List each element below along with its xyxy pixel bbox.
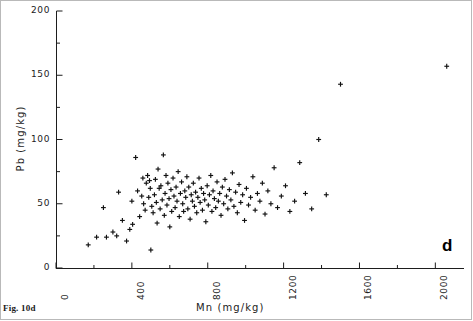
- data-point: [283, 183, 288, 188]
- data-point: [183, 195, 188, 200]
- x-axis-tick-label: 1200: [288, 275, 298, 300]
- data-point: [223, 177, 228, 182]
- data-point: [199, 186, 204, 191]
- data-point: [166, 181, 171, 186]
- data-point: [268, 201, 273, 206]
- data-point: [213, 205, 218, 210]
- data-point: [228, 197, 233, 202]
- data-point: [154, 200, 159, 205]
- data-point: [221, 201, 226, 206]
- data-point: [217, 191, 222, 196]
- x-axis-tick-label: 800: [212, 281, 222, 300]
- panel-letter-label: d: [442, 236, 452, 256]
- data-point: [140, 176, 145, 181]
- y-axis-tick-label: 200: [14, 5, 50, 15]
- data-point: [156, 167, 161, 172]
- data-point: [224, 194, 229, 199]
- data-point: [260, 181, 265, 186]
- x-axis-tick-label: 400: [136, 281, 146, 300]
- data-point: [265, 189, 270, 194]
- data-point: [230, 171, 235, 176]
- data-point: [149, 204, 154, 209]
- data-point: [178, 191, 183, 196]
- data-point: [275, 205, 280, 210]
- data-point: [202, 197, 207, 202]
- data-point: [233, 190, 238, 195]
- data-point: [205, 183, 210, 188]
- x-axis-tick-label: 0: [60, 294, 70, 300]
- data-point: [250, 174, 255, 179]
- data-point: [174, 185, 179, 190]
- data-point: [237, 182, 242, 187]
- data-point: [216, 199, 221, 204]
- data-point: [248, 195, 253, 200]
- data-point: [210, 209, 215, 214]
- data-point: [309, 206, 314, 211]
- data-point: [190, 199, 195, 204]
- data-point: [182, 189, 187, 194]
- data-point: [169, 187, 174, 192]
- data-point: [244, 186, 249, 191]
- data-point: [225, 206, 230, 211]
- data-point: [219, 213, 224, 218]
- data-point: [172, 194, 177, 199]
- data-point: [167, 224, 172, 229]
- data-point: [114, 233, 119, 238]
- data-point: [193, 190, 198, 195]
- data-point: [303, 191, 308, 196]
- data-point: [179, 180, 184, 185]
- data-point: [180, 201, 185, 206]
- data-point: [198, 200, 203, 205]
- data-point: [148, 248, 153, 253]
- data-point: [139, 194, 144, 199]
- scatter-plot-canvas: [0, 0, 473, 321]
- data-point: [173, 205, 178, 210]
- data-point: [130, 222, 135, 227]
- data-point: [279, 194, 284, 199]
- data-point: [201, 191, 206, 196]
- data-point: [194, 210, 199, 215]
- data-point: [287, 209, 292, 214]
- data-point: [257, 199, 262, 204]
- data-point: [292, 199, 297, 204]
- data-point: [141, 201, 146, 206]
- data-point: [215, 180, 220, 185]
- data-point: [101, 205, 106, 210]
- data-point: [162, 213, 167, 218]
- data-point: [184, 174, 189, 179]
- data-point: [161, 153, 166, 158]
- data-point: [133, 155, 138, 160]
- data-point: [152, 192, 157, 197]
- data-point: [238, 200, 243, 205]
- data-point: [211, 189, 216, 194]
- data-point: [158, 206, 163, 211]
- data-point: [253, 208, 258, 213]
- data-point: [188, 217, 193, 222]
- y-axis-tick-label: 50: [14, 198, 50, 208]
- data-point: [203, 219, 208, 224]
- y-axis-tick-label: 150: [14, 69, 50, 79]
- data-point: [94, 235, 99, 240]
- data-point: [151, 210, 156, 215]
- x-axis-tick-label: 2000: [439, 275, 449, 300]
- data-point: [197, 176, 202, 181]
- x-axis-title: Mn (mg/kg): [196, 302, 265, 313]
- figure-panel: 050100150200 0400800120016002000 Pb (mg/…: [0, 0, 473, 321]
- data-point: [272, 165, 277, 170]
- data-point: [137, 214, 142, 219]
- data-point: [127, 227, 132, 232]
- data-point: [195, 195, 200, 200]
- y-axis-title: Pb (mg/kg): [15, 89, 26, 189]
- figure-caption: Fig. 10d: [3, 303, 36, 313]
- data-point: [153, 177, 158, 182]
- data-point: [232, 204, 237, 209]
- data-point: [147, 178, 152, 183]
- y-axis-tick-label: 0: [14, 262, 50, 272]
- data-point: [86, 242, 91, 247]
- data-point: [192, 204, 197, 209]
- data-point: [155, 221, 160, 226]
- data-point: [120, 218, 125, 223]
- x-axis-tick-label: 1600: [363, 275, 373, 300]
- data-point: [235, 210, 240, 215]
- data-point: [316, 137, 321, 142]
